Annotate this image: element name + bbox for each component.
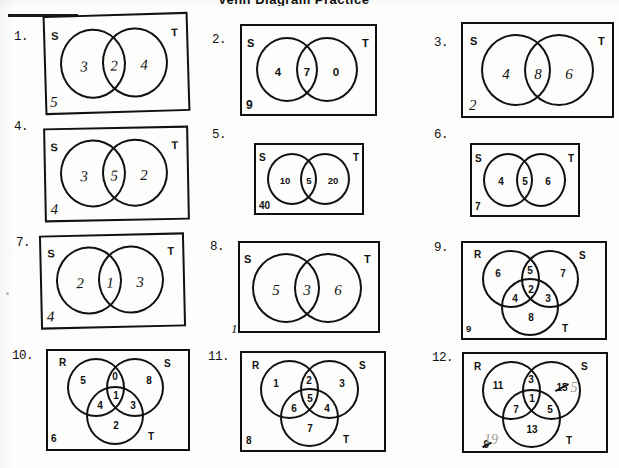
worksheet-title: Venn Diagram Practice <box>218 0 478 6</box>
set-label-s-4: S <box>50 141 58 153</box>
outside-value-8: 1 <box>231 321 238 337</box>
venn-region-2: S T 4 7 0 9 <box>240 24 377 116</box>
set-label-r-12: R <box>474 361 481 372</box>
region-value-intersection-5: 5 <box>306 175 311 186</box>
outside-value-6: 7 <box>475 201 481 212</box>
venn-region-12: R S T 11 3 15 5 7 1 5 13 9 19 <box>462 352 608 453</box>
problem-number-2: 2. <box>212 33 226 47</box>
region-value-rt-10: 4 <box>97 400 103 411</box>
problem-number-11: 11. <box>208 350 229 364</box>
region-value-right-only-7: 3 <box>136 274 144 291</box>
set-label-s-10: S <box>164 358 171 369</box>
problem-number-1: 1. <box>14 30 28 44</box>
region-value-right-only-3: 6 <box>565 66 573 83</box>
region-value-center-9: 2 <box>528 284 534 295</box>
set-label-s-1: S <box>51 30 59 42</box>
outside-value-10: 6 <box>51 433 57 444</box>
outside-value-2: 9 <box>246 98 253 112</box>
region-value-intersection-1: 2 <box>110 57 118 74</box>
set-label-t-1: T <box>171 26 178 38</box>
region-value-right-only-8: 6 <box>334 282 342 299</box>
set-label-s-5: S <box>259 152 266 163</box>
venn-region-3: S T 4 8 6 2 <box>461 22 614 118</box>
region-value-left-only-7: 2 <box>76 275 84 292</box>
venn-region-9: R S T 6 5 7 4 2 3 8 9 <box>461 241 607 340</box>
region-value-t-only-11: 7 <box>307 423 313 434</box>
region-value-rs-11: 2 <box>306 375 312 386</box>
set-label-t-5: T <box>353 152 359 163</box>
region-value-left-only-8: 5 <box>272 282 280 299</box>
region-value-left-only-5: 10 <box>280 175 291 186</box>
set-label-t-11: T <box>343 434 349 445</box>
set-label-s-11: S <box>359 360 366 371</box>
set-label-t-7: T <box>167 245 174 257</box>
region-value-left-only-1: 3 <box>80 58 88 75</box>
region-value-st-10: 3 <box>130 400 136 411</box>
set-label-t-3: T <box>598 35 605 47</box>
region-value-st-9: 3 <box>545 293 551 304</box>
problem-number-7: 7. <box>16 236 30 250</box>
region-value-s-only-9: 7 <box>560 268 566 279</box>
outside-value-9: 9 <box>466 323 471 334</box>
region-value-center-10: 1 <box>113 390 119 401</box>
venn-region-5: S T 10 5 20 40 <box>254 143 364 215</box>
region-value-intersection-2: 7 <box>304 66 310 78</box>
problem-number-10: 10. <box>12 349 33 363</box>
problem-number-12: 12. <box>432 351 453 365</box>
region-value-right-only-1: 4 <box>140 57 148 74</box>
set-label-s-3: S <box>470 35 477 47</box>
problem-number-6: 6. <box>434 128 448 142</box>
set-label-t-6: T <box>568 153 574 164</box>
region-value-rs-12: 3 <box>528 374 534 385</box>
region-value-s-only-12-corrected: 5 <box>571 380 578 396</box>
region-value-intersection-3: 8 <box>534 66 542 83</box>
region-value-intersection-8: 3 <box>303 282 311 299</box>
region-value-left-only-2: 4 <box>275 66 281 78</box>
region-value-t-only-12: 13 <box>526 424 537 435</box>
venn-region-4: S T 3 5 2 4 <box>43 126 190 223</box>
outside-value-1: 5 <box>50 94 58 111</box>
set-label-r-11: R <box>252 360 259 371</box>
outside-value-11: 8 <box>246 435 252 446</box>
region-value-right-only-2: 0 <box>333 66 339 78</box>
region-value-rt-9: 4 <box>512 293 518 304</box>
scan-speck <box>6 292 9 295</box>
region-value-r-only-11: 1 <box>273 378 279 389</box>
set-label-r-9: R <box>474 249 481 260</box>
region-value-intersection-6: 5 <box>522 176 528 187</box>
set-label-s-7: S <box>47 247 55 259</box>
outside-value-5: 40 <box>259 200 270 211</box>
set-label-s-6: S <box>475 153 482 164</box>
region-value-t-only-9: 8 <box>528 312 534 323</box>
region-value-rs-10: 0 <box>112 371 118 382</box>
region-value-st-12: 5 <box>547 404 553 415</box>
problem-number-8: 8. <box>210 240 224 254</box>
problem-number-4: 4. <box>14 120 28 134</box>
outside-value-7: 4 <box>47 308 55 325</box>
region-value-r-only-9: 6 <box>495 268 501 279</box>
problem-number-5: 5. <box>212 128 226 142</box>
set-label-t-12: T <box>566 435 572 446</box>
set-label-t-9: T <box>562 323 568 334</box>
set-label-t-8: T <box>364 253 371 265</box>
set-label-s-2: S <box>247 37 254 49</box>
region-value-s-only-11: 3 <box>339 378 345 389</box>
region-value-right-only-5: 20 <box>328 175 339 186</box>
region-value-rs-9: 5 <box>527 265 533 276</box>
set-label-t-4: T <box>171 139 178 151</box>
set-label-s-9: S <box>579 250 586 261</box>
region-value-left-only-4: 3 <box>80 168 88 185</box>
problem-number-9: 9. <box>434 241 448 255</box>
outside-value-4: 4 <box>51 201 59 218</box>
worksheet-title-text: Venn Diagram Practice <box>218 0 369 6</box>
region-value-center-12: 1 <box>529 393 535 404</box>
region-value-intersection-4: 5 <box>110 167 118 184</box>
region-value-right-only-4: 2 <box>140 167 148 184</box>
set-label-r-10: R <box>59 357 66 368</box>
region-value-center-11: 5 <box>307 393 313 404</box>
venn-region-7: S T 2 1 3 4 <box>39 232 186 329</box>
venn-region-1: S T 3 2 4 5 <box>43 12 191 115</box>
region-value-s-only-10: 8 <box>146 375 152 386</box>
region-value-s-only-12-struck: 15 <box>556 382 567 393</box>
venn-region-6: S T 4 5 6 7 <box>470 143 580 217</box>
